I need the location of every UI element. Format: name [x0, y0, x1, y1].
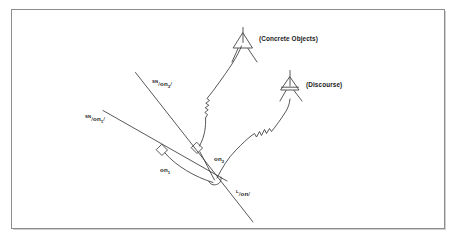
label-sn-on1-slash-close: / [103, 115, 105, 122]
label-concrete-objects: (Concrete Objects) [259, 35, 318, 42]
connector-node3-discourse [217, 99, 290, 178]
axis-upper-line [136, 73, 254, 223]
connector-node1-node3 [165, 153, 213, 183]
label-on1-sub: 1 [168, 170, 171, 175]
label-sn-on1-base: on [93, 115, 101, 122]
diagram-canvas [0, 0, 463, 247]
label-on2-base: on [214, 155, 222, 162]
connector-node2-node3 [200, 152, 215, 180]
concrete-objects-leg-right [248, 49, 257, 63]
label-on2-sub: 2 [222, 159, 225, 164]
label-on2: on2 [214, 155, 224, 164]
node-hook-mark [209, 177, 221, 185]
label-sn-on3-base: on [160, 80, 168, 87]
label-l-on: L/on/ [236, 189, 250, 197]
connector-node2-concrete [200, 46, 242, 146]
label-l-on-slash-close: / [248, 190, 250, 197]
label-on1: on1 [160, 166, 170, 175]
figure-page: (Concrete Objects) (Discourse) SN/on3/ S… [0, 0, 463, 247]
discourse-leg-right [294, 91, 302, 102]
discourse-leg-left [280, 91, 286, 102]
label-sn-on3: SN/on3/ [152, 79, 172, 89]
label-sn-on1: SN/on1/ [85, 114, 105, 124]
label-on1-base: on [160, 166, 168, 173]
label-sn-on3-slash-close: / [170, 80, 172, 87]
label-discourse: (Discourse) [306, 81, 342, 88]
